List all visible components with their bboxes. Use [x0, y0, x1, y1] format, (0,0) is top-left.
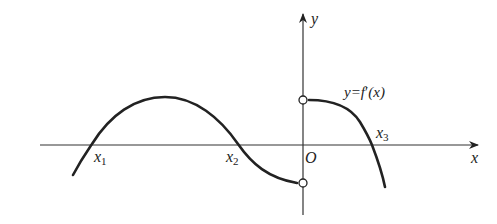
function-graph: y x O y=f′(x) x1 x2 x3	[0, 0, 497, 224]
x-axis-label: x	[470, 149, 478, 166]
open-point-lower	[299, 179, 307, 187]
open-point-upper	[299, 96, 307, 104]
curve-left-branch	[73, 97, 297, 183]
root-label-x3: x3	[375, 124, 389, 143]
curve-right-branch	[309, 100, 385, 187]
curve-label: y=f′(x)	[342, 84, 385, 101]
root-label-x2: x2	[225, 148, 239, 167]
root-label-x1: x1	[93, 148, 107, 167]
origin-label: O	[305, 149, 317, 166]
y-axis-label: y	[309, 10, 319, 28]
